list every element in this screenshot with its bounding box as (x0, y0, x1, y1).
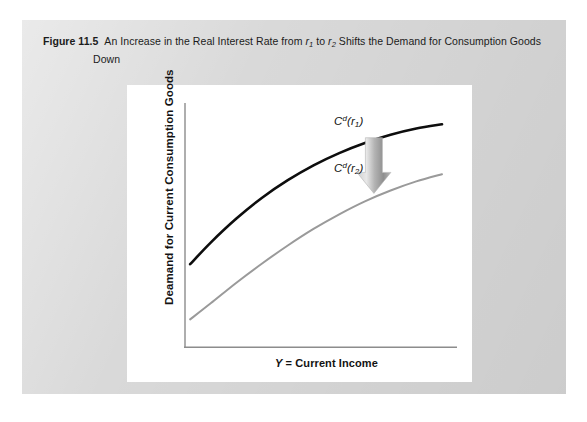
caption-text-c: Shifts the Demand for Consumption Goods (336, 35, 541, 47)
caption-text-b: to (313, 35, 328, 47)
demand-curve-r1 (190, 124, 442, 264)
x-axis-title: Y = Current Income (275, 357, 378, 369)
caption-text-a: An Increase in the Real Interest Rate fr… (104, 35, 305, 47)
chart-canvas (127, 85, 472, 382)
demand-curve-r2 (190, 174, 442, 319)
caption-line-2: Down (93, 52, 541, 66)
figure-panel: Figure 11.5 An Increase in the Real Inte… (22, 20, 566, 394)
curve-label-r1-close: ) (359, 115, 363, 127)
curve-label-r2: Cd(r2) (334, 161, 363, 176)
figure-caption: Figure 11.5 An Increase in the Real Inte… (43, 34, 541, 66)
curve-label-r1: Cd(r1) (334, 114, 363, 129)
plot-card: Deamand for Current Consumption Goods Y … (127, 85, 472, 382)
curve-label-r2-close: ) (359, 162, 363, 174)
figure-number: Figure 11.5 (43, 35, 98, 47)
x-axis-rest: = Current Income (282, 357, 378, 369)
y-axis-title: Deamand for Current Consumption Goods (163, 85, 175, 305)
